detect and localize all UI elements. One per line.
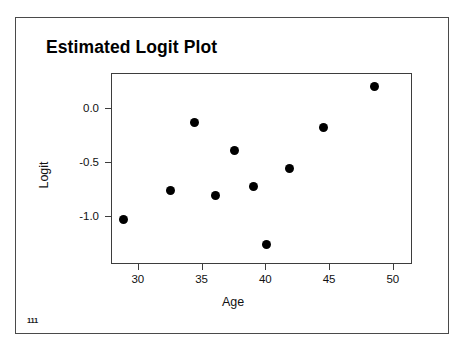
- data-point: [119, 215, 128, 224]
- x-axis-tick-label: 50: [386, 273, 399, 285]
- y-axis-label: Logit: [37, 161, 51, 188]
- data-point: [190, 118, 199, 127]
- y-axis-tick-label: -0.5: [61, 156, 99, 168]
- x-axis-tick: [393, 264, 394, 270]
- slide-frame: Estimated Logit Plot 0.0-0.5-1.0 3035404…: [15, 17, 449, 334]
- y-axis-tick-label: 0.0: [61, 102, 99, 114]
- x-axis-tick-label: 35: [195, 273, 208, 285]
- x-axis-tick: [265, 264, 266, 270]
- x-axis-tick: [329, 264, 330, 270]
- x-axis-tick: [202, 264, 203, 270]
- y-axis-tick-label: -1.0: [61, 210, 99, 222]
- data-point: [262, 240, 271, 249]
- data-point: [230, 146, 239, 155]
- x-axis-tick-label: 30: [131, 273, 144, 285]
- x-axis-label: Age: [16, 295, 450, 309]
- data-point: [211, 191, 220, 200]
- data-point: [166, 186, 175, 195]
- data-point: [319, 123, 328, 132]
- plot-frame: [111, 73, 412, 264]
- data-point: [370, 82, 379, 91]
- y-axis-tick: [105, 216, 111, 217]
- page-number: 111: [27, 316, 38, 325]
- y-axis-tick: [105, 108, 111, 109]
- data-point: [249, 182, 258, 191]
- x-axis-tick-label: 40: [259, 273, 272, 285]
- data-point: [285, 164, 294, 173]
- x-axis-tick-label: 45: [323, 273, 336, 285]
- y-axis-tick: [105, 162, 111, 163]
- logit-scatter-chart: 0.0-0.5-1.0 3035404550 Logit Age: [16, 18, 450, 335]
- x-axis-tick: [138, 264, 139, 270]
